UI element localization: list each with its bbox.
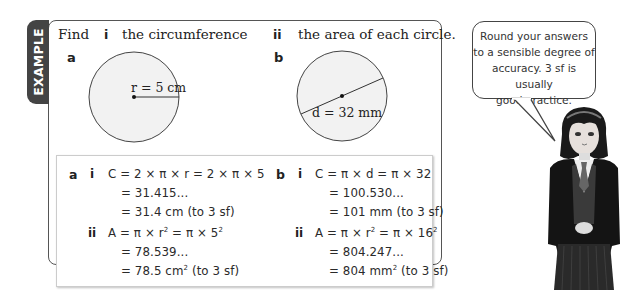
solution-a-ii-line: = 78.5 cm2 (to 3 sf): [121, 264, 239, 278]
solution-panel: a i C = 2 × π × r = 2 × π × 5 = 31.415..…: [56, 155, 433, 287]
example-tab-label: EXAMPLE: [31, 28, 46, 95]
solution-a-ii-line: = 78.539...: [121, 245, 188, 259]
solution-a-i-line: = 31.4 cm (to 3 sf): [121, 205, 235, 219]
solution-b-ii-line: = 804.247...: [329, 245, 404, 259]
part-i-label: i: [104, 27, 108, 42]
solution-b-ii-label: ii: [295, 226, 303, 240]
solution-b-label: b: [276, 167, 285, 182]
speech-line: Round your answers: [473, 28, 595, 44]
solution-a-ii-label: ii: [88, 226, 96, 240]
radius-label: r = 5 cm: [131, 80, 186, 95]
circle-a-diagram: [88, 50, 180, 144]
speech-line: accuracy. 3 sf is usually: [473, 60, 595, 92]
speech-bubble: Round your answers to a sensible degree …: [472, 21, 596, 99]
solution-b-i-line: = 100.530...: [329, 186, 404, 200]
speech-bubble-text: Round your answers to a sensible degree …: [473, 28, 595, 108]
solution-b-ii-line: A = π × r2 = π × 162: [315, 226, 438, 240]
student-character-illustration: [540, 104, 630, 294]
part-ii-label: ii: [273, 27, 282, 42]
circle-a-label: a: [67, 50, 76, 65]
circle-b-diagram: [296, 49, 388, 143]
part-i-text: the circumference: [122, 26, 247, 42]
solution-a-i-line: = 31.415...: [121, 186, 188, 200]
solution-b-i-line: = 101 mm (to 3 sf): [329, 205, 444, 219]
solution-a-label: a: [69, 167, 77, 182]
speech-line: to a sensible degree of: [473, 44, 595, 60]
circle-b-label: b: [274, 50, 283, 65]
solution-b-i-line: C = π × d = π × 32: [315, 167, 431, 181]
diameter-label: d = 32 mm: [312, 105, 382, 120]
solution-a-i-line: C = 2 × π × r = 2 × π × 5: [108, 167, 265, 181]
solution-b-ii-line: = 804 mm2 (to 3 sf): [329, 264, 448, 278]
find-label: Find: [58, 26, 89, 42]
solution-a-ii-line: A = π × r2 = π × 52: [108, 226, 223, 240]
example-tab: EXAMPLE: [27, 20, 49, 104]
part-ii-text: the area of each circle.: [298, 26, 456, 42]
solution-b-i-label: i: [298, 167, 302, 181]
solution-a-i-label: i: [90, 167, 94, 181]
